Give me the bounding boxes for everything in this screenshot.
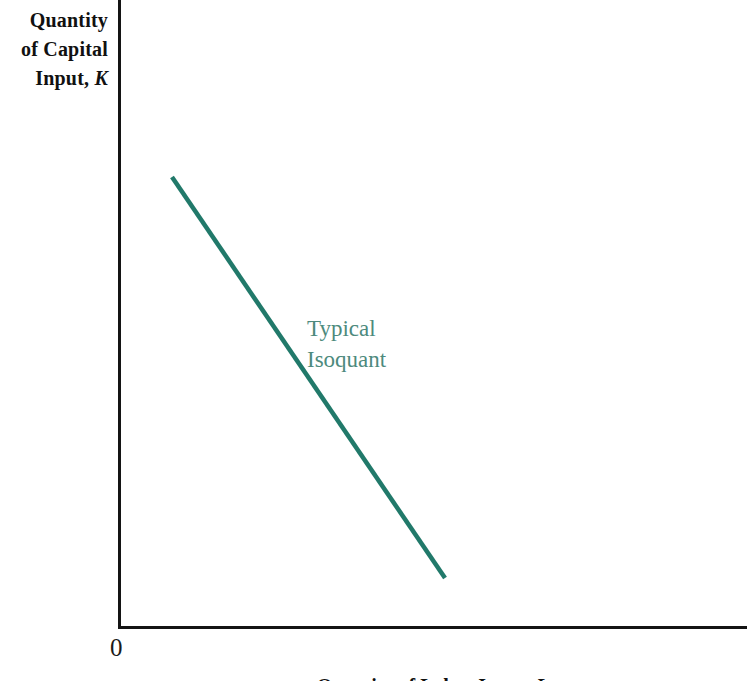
x-axis-label-text: Quantity of Labor Input, xyxy=(317,675,531,681)
isoquant-curve xyxy=(172,177,445,578)
y-axis-line xyxy=(118,0,121,629)
isoquant-annotation-label: Typical Isoquant xyxy=(307,313,386,375)
y-axis-label-line-1: Quantity xyxy=(0,6,108,35)
y-axis-label-line-2: of Capital xyxy=(0,35,108,64)
origin-label: 0 xyxy=(110,634,123,662)
y-axis-label: Quantity of Capital Input, K xyxy=(0,6,108,93)
x-axis-variable: L xyxy=(536,675,548,681)
y-axis-variable: K xyxy=(94,67,108,89)
isoquant-figure: Quantity of Capital Input, K 0 Typical I… xyxy=(0,0,747,681)
y-axis-label-line-3: Input, K xyxy=(0,64,108,93)
y-axis-label-line-3-text: Input, xyxy=(35,67,89,89)
x-axis-line xyxy=(118,626,747,629)
x-axis-label: Quantity of Labor Input, L xyxy=(118,672,747,681)
